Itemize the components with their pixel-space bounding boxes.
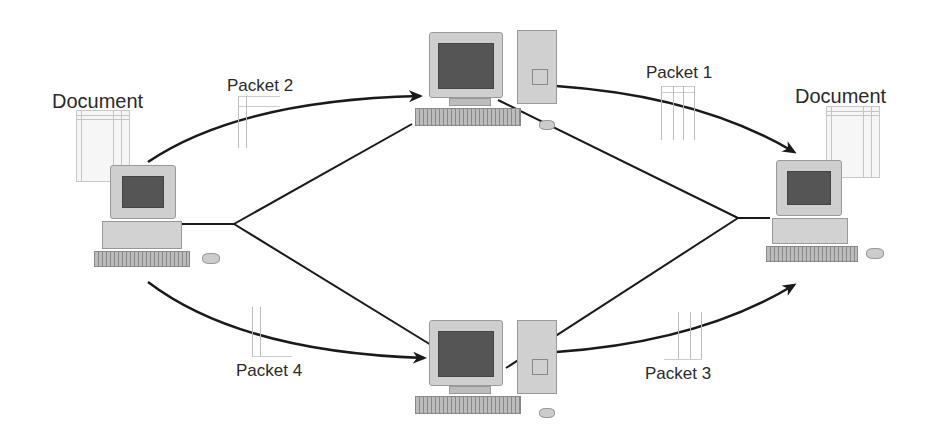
document-label-left: Document [52, 90, 143, 113]
keyboard-icon [766, 246, 858, 262]
desktop-case-icon [772, 218, 848, 244]
sender-computer [94, 165, 224, 271]
monitor-icon [429, 320, 503, 386]
packet2-fragment-icon [238, 96, 280, 148]
tower-case-icon [517, 320, 557, 394]
packet3-fragment-icon [664, 312, 702, 360]
mouse-icon [202, 253, 220, 264]
monitor-icon [110, 165, 176, 219]
monitor-stand-icon [449, 386, 491, 394]
router-top-computer [413, 32, 565, 132]
monitor-stand-icon [449, 98, 491, 106]
packet1-label: Packet 1 [646, 63, 712, 83]
packet-switching-diagram: Document Document Packet 2 Packet 1 Pack… [0, 0, 944, 438]
tower-case-icon [517, 30, 557, 104]
packet4-fragment-icon [252, 307, 292, 357]
mouse-icon [866, 248, 884, 259]
arrow-packet2 [148, 96, 420, 162]
keyboard-icon [415, 108, 521, 126]
desktop-case-icon [102, 221, 182, 249]
router-bottom-computer [413, 320, 565, 420]
packet1-fragment-icon [661, 86, 695, 140]
keyboard-icon [94, 251, 190, 267]
packet3-label: Packet 3 [645, 364, 711, 384]
mouse-icon [539, 120, 555, 130]
document-label-right: Document [795, 85, 886, 108]
monitor-icon [429, 32, 503, 98]
packet2-label: Packet 2 [227, 76, 293, 96]
receiver-computer [760, 160, 890, 266]
mouse-icon [539, 408, 555, 418]
monitor-icon [776, 160, 842, 216]
keyboard-icon [415, 396, 521, 414]
packet4-label: Packet 4 [236, 361, 302, 381]
